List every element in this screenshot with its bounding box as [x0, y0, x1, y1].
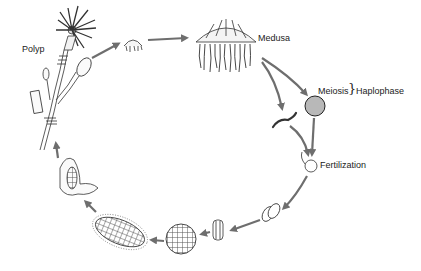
arrow-polyp-to-ephyra	[92, 44, 118, 58]
life-cycle-diagram: Polyp Medusa Meiosis } Haplophase Fertil…	[0, 0, 421, 271]
polyp-tentacles	[56, 6, 96, 48]
medusa-label: Medusa	[258, 33, 290, 43]
haplophase-label: Haplophase	[356, 86, 404, 96]
arrow-egg-to-fertilization	[312, 118, 314, 154]
settling-planula-illustration	[60, 158, 98, 195]
blastula-illustration	[166, 224, 196, 254]
fertilized-egg-illustration	[301, 152, 317, 172]
arrow-four-cell-to-blastula	[202, 232, 210, 234]
arrow-fertilization-to-two-cell	[284, 176, 307, 208]
two-cell-stage-illustration	[260, 202, 283, 224]
sperm-illustration	[273, 113, 296, 127]
fertilization-label: Fertilization	[320, 160, 366, 170]
arrow-settling-to-polyp	[56, 144, 58, 158]
arrow-blastula-to-planula	[152, 240, 164, 241]
meiosis-label: Meiosis	[318, 86, 349, 96]
planula-illustration	[87, 207, 152, 257]
diagram-canvas	[0, 0, 421, 271]
medusa-illustration	[196, 19, 256, 72]
arrow-ephyra-to-medusa	[148, 38, 186, 40]
ephyra-illustration	[124, 40, 142, 52]
arrow-planula-to-settling	[86, 202, 96, 212]
polyp-illustration	[30, 6, 96, 150]
arrow-two-cell-to-four-cell	[232, 220, 260, 230]
arrow-sperm-to-fertilization	[290, 126, 308, 154]
arrow-medusa-to-egg	[262, 58, 306, 94]
egg-illustration	[305, 96, 325, 116]
polyp-label: Polyp	[22, 44, 45, 54]
four-cell-stage-illustration	[213, 220, 223, 240]
